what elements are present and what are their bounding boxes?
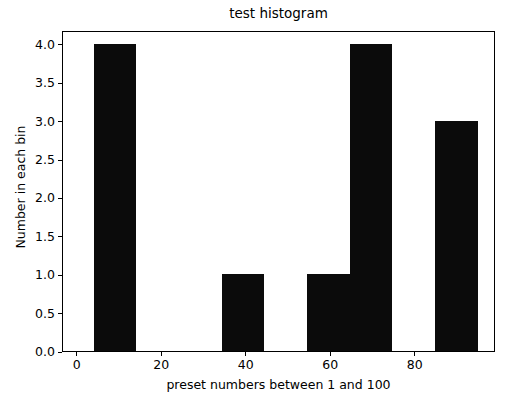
chart-title: test histogram (62, 5, 495, 21)
y-tick-mark (58, 352, 62, 353)
y-tick-mark (58, 83, 62, 84)
x-tick-mark (330, 352, 331, 356)
y-tick-label: 0.5 (15, 307, 55, 320)
histogram-bar (94, 44, 137, 351)
x-tick-label: 60 (310, 358, 350, 372)
histogram-bar (222, 274, 265, 351)
x-tick-mark (76, 352, 77, 356)
x-tick-label: 40 (226, 358, 266, 372)
y-axis-label: Number in each bin (14, 87, 28, 287)
histogram-bar (435, 121, 478, 351)
y-tick-mark (58, 275, 62, 276)
y-tick-label: 0.0 (15, 345, 55, 358)
y-tick-mark (58, 236, 62, 237)
plot-area (62, 31, 495, 352)
y-tick-mark (58, 160, 62, 161)
histogram-figure: test histogram 0.00.51.01.52.02.53.03.54… (0, 0, 513, 408)
y-tick-mark (58, 44, 62, 45)
x-tick-label: 80 (395, 358, 435, 372)
x-tick-label: 0 (57, 358, 97, 372)
x-tick-mark (245, 352, 246, 356)
x-tick-mark (161, 352, 162, 356)
x-tick-label: 20 (141, 358, 181, 372)
histogram-bar (350, 44, 393, 351)
histogram-bar (307, 274, 350, 351)
x-tick-mark (414, 352, 415, 356)
x-axis-label: preset numbers between 1 and 100 (62, 377, 495, 392)
y-tick-label: 4.0 (15, 38, 55, 51)
y-tick-mark (58, 198, 62, 199)
y-tick-mark (58, 313, 62, 314)
y-tick-mark (58, 121, 62, 122)
